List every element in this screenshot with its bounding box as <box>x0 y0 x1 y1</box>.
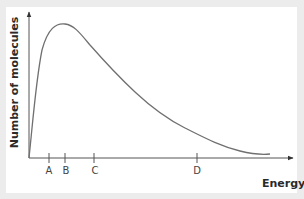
y-axis-label: Number of molecules <box>8 16 21 148</box>
x-axis-label: Energy <box>262 177 304 190</box>
tick-label-c: C <box>92 165 99 176</box>
tick-label-b: B <box>63 165 70 176</box>
tick-label-a: A <box>46 165 53 176</box>
tick-label-d: D <box>193 165 201 176</box>
distribution-curve <box>29 24 270 158</box>
